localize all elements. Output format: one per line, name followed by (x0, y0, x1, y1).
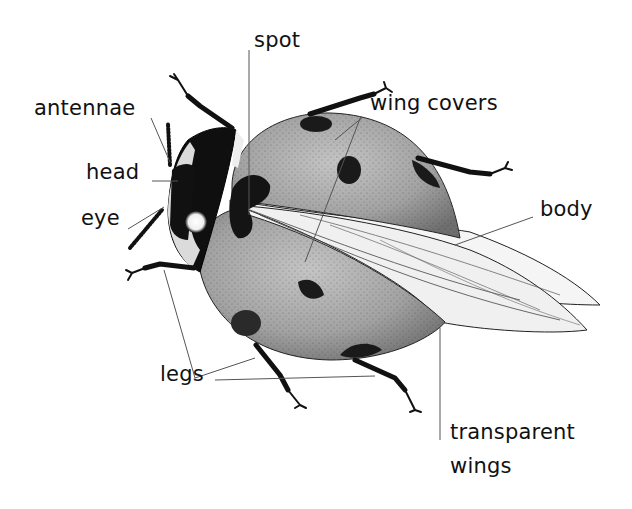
label-body: body (540, 199, 593, 220)
label-transparent-wings-line1: transparent (450, 422, 575, 443)
label-spot: spot (254, 30, 300, 51)
label-wing-covers: wing covers (370, 93, 498, 114)
antennae (130, 124, 170, 248)
leader-legs-2 (215, 376, 375, 380)
leader-eye (128, 207, 164, 229)
label-legs: legs (160, 364, 204, 385)
label-transparent-wings-line2: wings (450, 456, 512, 477)
label-eye: eye (81, 208, 120, 229)
label-antennae: antennae (34, 98, 135, 119)
spot-5 (231, 310, 261, 336)
spot-1 (300, 116, 332, 132)
ladybird-diagram: spot antennae wing covers head eye body … (0, 0, 632, 509)
eye-spot (185, 211, 207, 233)
label-head: head (86, 162, 139, 183)
